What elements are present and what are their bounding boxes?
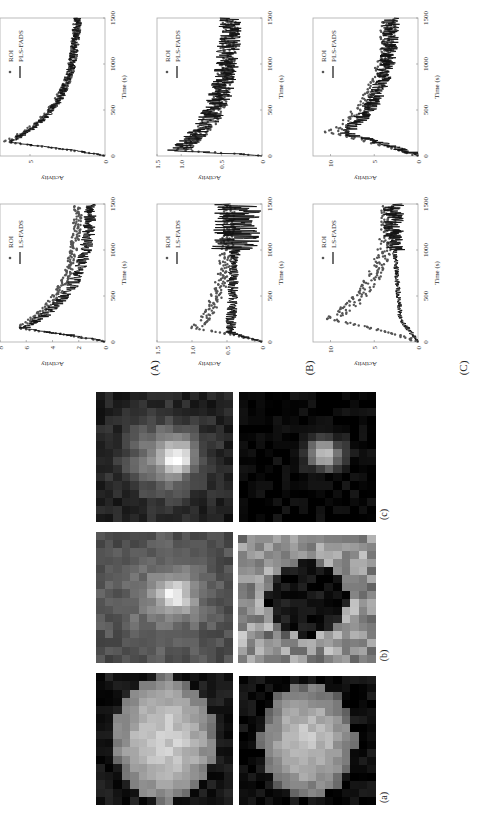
x-axis-label: Time (s) (433, 75, 441, 99)
roi-point (202, 329, 204, 331)
roi-point (42, 309, 44, 311)
roi-point (384, 330, 386, 332)
roi-point (337, 310, 339, 312)
roi-point (217, 283, 219, 285)
roi-point (345, 309, 347, 311)
roi-point (58, 289, 60, 291)
roi-point (225, 266, 227, 268)
roi-point (367, 88, 369, 90)
roi-point (378, 261, 380, 263)
roi-point (211, 304, 213, 306)
roi-point (356, 107, 358, 109)
roi-point (218, 260, 220, 262)
roi-point (388, 253, 390, 255)
roi-point (67, 260, 69, 262)
roi-point (221, 253, 223, 255)
legend-roi-label: ROI (320, 49, 328, 62)
roi-point (224, 256, 226, 258)
legend-fads-label: PLS-FADS (17, 30, 25, 62)
x-tick-label: 1000 (266, 243, 274, 258)
roi-point (374, 67, 376, 69)
roi-point (380, 271, 382, 273)
x-tick-label: 500 (266, 104, 274, 115)
roi-point (221, 268, 223, 270)
roi-point (365, 293, 367, 295)
roi-point (373, 264, 375, 266)
roi-point (214, 331, 216, 333)
roi-point (69, 255, 71, 257)
roi-point (380, 51, 382, 53)
roi-point (79, 228, 81, 230)
roi-point (77, 210, 79, 212)
x-tick-label: 500 (422, 290, 430, 301)
roi-point (217, 273, 219, 275)
roi-point (223, 252, 225, 254)
image-a-bottom (239, 676, 376, 805)
roi-point (369, 85, 371, 87)
roi-point (69, 271, 71, 273)
roi-point (380, 329, 382, 331)
roi-point (78, 235, 80, 237)
roi-point (403, 335, 405, 337)
chart-C-LS: 0500100015000510Time (s)ActivityROILS-FA… (313, 186, 487, 336)
roi-point (386, 250, 388, 252)
roi-point (226, 263, 228, 265)
roi-point (191, 326, 193, 328)
y-tick-label: 1.0 (178, 160, 186, 169)
roi-point (80, 220, 82, 222)
roi-point (200, 319, 202, 321)
legend-roi-marker (9, 71, 12, 74)
roi-point (75, 218, 77, 220)
roi-point (215, 123, 217, 125)
roi-point (212, 302, 214, 304)
roi-point (214, 306, 216, 308)
y-axis-label: Activity (354, 360, 377, 368)
roi-point (361, 284, 363, 286)
roi-point (383, 263, 385, 265)
roi-point (364, 325, 366, 327)
roi-point (196, 326, 198, 328)
roi-point (219, 272, 221, 274)
roi-point (359, 298, 361, 300)
x-tick-label: 0 (266, 154, 274, 158)
roi-point (62, 277, 64, 279)
roi-point (215, 295, 217, 297)
roi-point (375, 260, 377, 262)
y-tick-label: 5 (371, 346, 379, 350)
x-tick-label: 0 (422, 340, 430, 344)
y-tick-label: 10 (327, 346, 335, 354)
roi-point (336, 313, 338, 315)
y-tick-label: 5 (371, 160, 379, 164)
roi-point (207, 313, 209, 315)
legend-fads-label: LS-FADS (174, 220, 182, 248)
roi-point (328, 315, 330, 317)
x-tick-label: 0 (109, 154, 117, 158)
roi-point (350, 111, 352, 113)
roi-point (28, 125, 30, 127)
x-tick-label: 1500 (266, 11, 274, 26)
roi-point (202, 313, 204, 315)
roi-point (366, 326, 368, 328)
roi-point (339, 127, 341, 129)
roi-point (222, 22, 224, 24)
roi-point (330, 129, 332, 131)
roi-point (351, 137, 353, 139)
roi-point (369, 289, 371, 291)
roi-point (57, 285, 59, 287)
legend-roi-label: ROI (7, 235, 15, 248)
roi-point (21, 323, 23, 325)
legend-fads-label: LS-FADS (17, 220, 25, 248)
roi-point (73, 205, 75, 207)
roi-point (361, 293, 363, 295)
roi-point (342, 123, 344, 125)
roi-point (208, 307, 210, 309)
y-tick-label: 0.5 (224, 346, 232, 355)
roi-point (219, 331, 221, 333)
legend-fads-label: PLS-FADS (174, 30, 182, 62)
roi-point (387, 331, 389, 333)
legend-roi-marker (166, 71, 169, 74)
y-tick-label: 4 (49, 346, 57, 350)
chart-svg: 05001000150002468Time (s)ActivityROILS-F… (0, 172, 140, 372)
image-label-a: (a) (378, 792, 389, 803)
roi-point (369, 81, 371, 83)
